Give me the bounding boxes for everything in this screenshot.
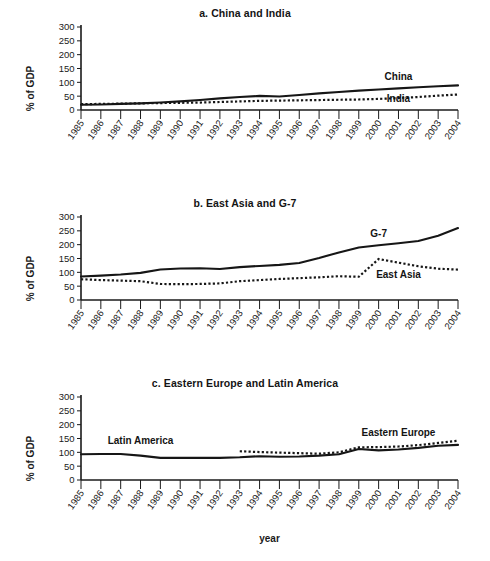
y-tick-label: 100 (59, 77, 75, 88)
x-tick-label: 1997 (303, 488, 324, 512)
x-tick-label: 2004 (442, 308, 463, 332)
panel-c-plot-area: 050100150200250300% of GDP19851986198719… (0, 389, 490, 557)
y-tick-label: 0 (69, 104, 74, 115)
x-tick-label: 1999 (343, 118, 364, 142)
y-axis-title: % of GDP (25, 255, 36, 301)
x-tick-label: 2002 (402, 488, 423, 512)
y-tick-label: 100 (59, 447, 75, 458)
x-tick-label: 1985 (65, 118, 86, 142)
x-tick-label: 1992 (204, 488, 225, 512)
x-tick-label: 1989 (144, 308, 165, 332)
y-tick-label: 150 (59, 253, 75, 264)
series-label-east-asia: East Asia (376, 269, 421, 280)
x-tick-label: 1986 (85, 118, 106, 142)
panel-b-title: b. East Asia and G-7 (0, 190, 490, 209)
panel-a-plot-area: 050100150200250300% of GDP19851986198719… (0, 19, 490, 184)
x-tick-label: 2004 (442, 488, 463, 512)
x-tick-label: 1986 (85, 488, 106, 512)
x-tick-label: 1993 (224, 488, 245, 512)
x-tick-label: 1991 (184, 488, 205, 512)
series-label-g-7: G-7 (370, 228, 387, 239)
x-tick-label: 1994 (244, 118, 265, 142)
x-tick-label: 1998 (323, 308, 344, 332)
y-tick-label: 50 (64, 91, 75, 102)
series-label-india: India (387, 93, 411, 104)
x-tick-label: 2002 (402, 308, 423, 332)
x-tick-label: 1993 (224, 118, 245, 142)
x-tick-label: 1985 (65, 308, 86, 332)
x-tick-label: 1997 (303, 308, 324, 332)
y-tick-label: 50 (64, 281, 75, 292)
series-label-china: China (385, 71, 413, 82)
x-tick-label: 2000 (363, 308, 384, 332)
x-tick-label: 2003 (422, 308, 443, 332)
x-tick-label: 2004 (442, 118, 463, 142)
y-tick-label: 150 (59, 63, 75, 74)
x-tick-label: 2001 (382, 308, 403, 332)
x-tick-label: 1996 (283, 308, 304, 332)
y-axis-title: % of GDP (25, 435, 36, 481)
x-tick-label: 2000 (363, 488, 384, 512)
y-tick-label: 300 (59, 211, 75, 222)
x-tick-label: 2003 (422, 488, 443, 512)
y-tick-label: 250 (59, 405, 75, 416)
x-tick-label: 1988 (125, 118, 146, 142)
y-tick-label: 200 (59, 419, 75, 430)
x-tick-label: 2001 (382, 488, 403, 512)
x-tick-label: 1999 (343, 308, 364, 332)
x-tick-label: 1995 (263, 488, 284, 512)
y-tick-label: 0 (69, 474, 74, 485)
y-tick-label: 0 (69, 294, 74, 305)
series-line-latin-america (81, 445, 458, 458)
y-axis-title: % of GDP (25, 65, 36, 111)
panel-c-svg: 050100150200250300% of GDP19851986198719… (0, 389, 490, 557)
x-tick-label: 1995 (263, 308, 284, 332)
x-tick-label: 1995 (263, 118, 284, 142)
y-tick-label: 300 (59, 21, 75, 32)
series-label-latin-america: Latin America (108, 435, 174, 446)
x-tick-label: 1998 (323, 118, 344, 142)
x-tick-label: 1990 (164, 118, 185, 142)
x-tick-label: 2003 (422, 118, 443, 142)
y-tick-label: 300 (59, 391, 75, 402)
x-tick-label: 1997 (303, 118, 324, 142)
y-tick-label: 150 (59, 433, 75, 444)
x-tick-label: 1985 (65, 488, 86, 512)
chart-panel-easteurope-latinamerica: c. Eastern Europe and Latin America 0501… (0, 370, 490, 561)
x-tick-label: 1993 (224, 308, 245, 332)
chart-panel-china-india: a. China and India 050100150200250300% o… (0, 0, 490, 190)
x-tick-label: 1987 (105, 308, 126, 332)
x-tick-label: 2002 (402, 118, 423, 142)
x-tick-label: 1998 (323, 488, 344, 512)
x-axis-title: year (259, 533, 280, 544)
y-tick-label: 250 (59, 35, 75, 46)
chart-panel-eastasia-g7: b. East Asia and G-7 050100150200250300%… (0, 190, 490, 370)
y-tick-label: 50 (64, 461, 75, 472)
x-tick-label: 1989 (144, 118, 165, 142)
y-tick-label: 200 (59, 49, 75, 60)
x-tick-label: 2000 (363, 118, 384, 142)
panel-c-title: c. Eastern Europe and Latin America (0, 370, 490, 389)
panel-b-svg: 050100150200250300% of GDP19851986198719… (0, 209, 490, 364)
x-tick-label: 1991 (184, 308, 205, 332)
x-tick-label: 1994 (244, 488, 265, 512)
y-tick-label: 250 (59, 225, 75, 236)
y-tick-label: 100 (59, 267, 75, 278)
x-tick-label: 1988 (125, 488, 146, 512)
x-tick-label: 1992 (204, 118, 225, 142)
x-tick-label: 1991 (184, 118, 205, 142)
x-tick-label: 1990 (164, 308, 185, 332)
x-tick-label: 1994 (244, 308, 265, 332)
panel-a-svg: 050100150200250300% of GDP19851986198719… (0, 19, 490, 184)
x-tick-label: 1987 (105, 488, 126, 512)
x-tick-label: 2001 (382, 118, 403, 142)
x-tick-label: 1996 (283, 118, 304, 142)
x-tick-label: 1989 (144, 488, 165, 512)
x-tick-label: 1987 (105, 118, 126, 142)
x-tick-label: 1986 (85, 308, 106, 332)
x-tick-label: 1992 (204, 308, 225, 332)
x-tick-label: 1999 (343, 488, 364, 512)
panel-a-title: a. China and India (0, 0, 490, 19)
y-tick-label: 200 (59, 239, 75, 250)
x-tick-label: 1996 (283, 488, 304, 512)
